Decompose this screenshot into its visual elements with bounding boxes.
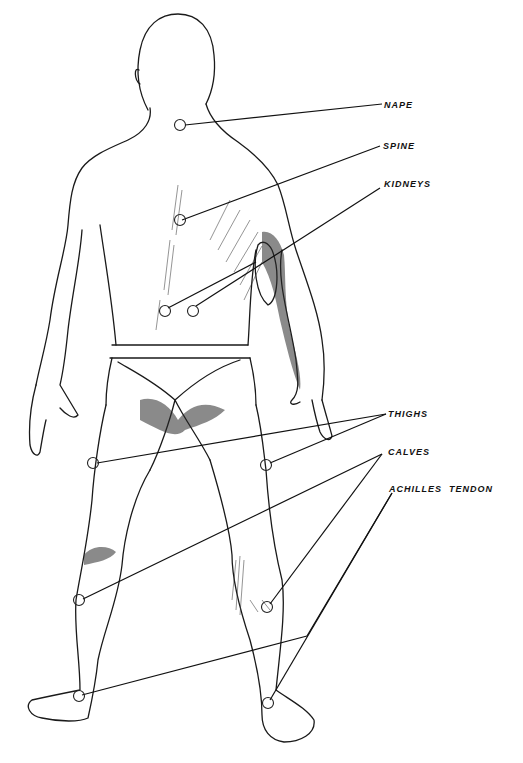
buttocks-shading — [140, 399, 225, 434]
right-calf-shading — [232, 556, 270, 615]
achilles-leader-right — [270, 493, 392, 700]
spine-leader — [182, 146, 380, 220]
left-arm-outline — [29, 230, 82, 455]
label-calves: CALVES — [388, 447, 430, 457]
calf-point-right[interactable] — [262, 602, 273, 613]
kidneys-leader-2 — [196, 188, 380, 306]
thighs-leader-left — [97, 414, 386, 463]
body-figure — [28, 14, 332, 742]
achilles-leader-left — [82, 636, 307, 695]
leader-lines — [82, 104, 392, 700]
nape-point[interactable] — [175, 120, 186, 131]
right-arm-shading — [262, 232, 300, 390]
label-thighs: THIGHS — [388, 409, 428, 419]
calf-point-left[interactable] — [74, 595, 85, 606]
body-diagram: NAPE SPINE KIDNEYS THIGHS CALVES ACHILLE… — [0, 0, 523, 763]
label-nape: NAPE — [384, 100, 413, 110]
kidneys-leader-1 — [168, 262, 256, 308]
kidney-point-right[interactable] — [188, 306, 199, 317]
nape-leader — [185, 104, 382, 125]
shorts-outline — [106, 358, 256, 405]
right-back-shading — [210, 200, 262, 300]
right-leg-outline — [210, 405, 314, 742]
label-achilles-tendon: ACHILLES TENDON — [388, 484, 493, 494]
waistband — [110, 345, 250, 358]
left-knee-shading — [84, 547, 116, 565]
thigh-point-left[interactable] — [88, 458, 99, 469]
labels: NAPE SPINE KIDNEYS THIGHS CALVES ACHILLE… — [383, 100, 493, 494]
label-spine: SPINE — [383, 141, 415, 151]
label-kidneys: KIDNEYS — [384, 179, 431, 189]
kidney-point-left[interactable] — [160, 306, 171, 317]
achilles-point-left[interactable] — [74, 691, 85, 702]
spine-point[interactable] — [175, 215, 186, 226]
torso-left-side — [100, 225, 116, 345]
head-outline — [138, 14, 215, 110]
left-shoulder-outline — [36, 108, 150, 385]
achilles-point-right[interactable] — [263, 698, 274, 709]
calves-leader-right — [270, 454, 382, 604]
